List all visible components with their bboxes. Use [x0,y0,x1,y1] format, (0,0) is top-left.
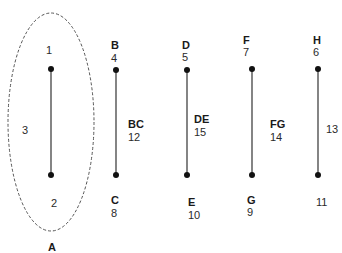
label-g: G [247,194,256,206]
node-c [113,172,119,178]
label-h: H [313,34,321,46]
node-h-bottom [315,172,321,178]
label-6: 6 [313,46,319,58]
label-15: 15 [194,126,206,138]
label-1: 1 [46,44,52,56]
node-d [184,67,190,73]
label-11: 11 [316,196,327,208]
diagram-canvas: 1 3 2 A B 4 BC 12 C 8 D 5 DE 15 E 10 F 7… [0,0,342,253]
node-f [249,66,255,72]
label-9: 9 [247,206,253,218]
node-b [113,67,119,73]
label-8: 8 [111,207,117,219]
label-a: A [48,241,56,253]
label-fg: FG [270,118,285,130]
label-14: 14 [270,131,282,143]
node-e [184,172,190,178]
label-f: F [243,34,250,46]
label-7: 7 [243,46,249,58]
label-e: E [188,196,195,208]
node-a-bottom [48,172,54,178]
label-3: 3 [22,124,28,136]
label-12: 12 [128,131,140,143]
label-d: D [182,39,190,51]
node-h-top [315,66,321,72]
label-bc: BC [128,118,144,130]
label-2: 2 [51,197,57,209]
label-de: DE [194,113,209,125]
label-b: B [111,39,119,51]
node-a-top [48,66,54,72]
label-c: C [111,194,119,206]
label-10: 10 [188,209,200,221]
label-5: 5 [182,51,188,63]
label-4: 4 [111,52,117,64]
label-13: 13 [326,123,338,135]
node-g [249,172,255,178]
